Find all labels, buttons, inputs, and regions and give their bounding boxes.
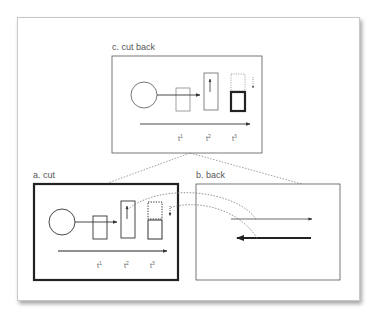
panel-a-label: a. cut <box>33 170 56 180</box>
diagram-canvas: c. cut back t1 t2 t3 a. cut t1 t2 t3 b. … <box>0 0 378 323</box>
panel-b-label: b. back <box>196 170 226 180</box>
panel-cut: a. cut t1 t2 t3 <box>33 170 178 280</box>
panel-c-label: c. cut back <box>112 42 156 52</box>
panel-cut-back: c. cut back t1 t2 t3 <box>112 42 262 153</box>
panel-back: b. back <box>196 170 340 280</box>
